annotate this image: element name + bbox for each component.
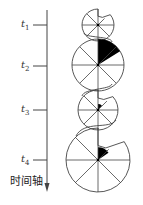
time-axis xyxy=(45,10,50,192)
circle-3 xyxy=(78,90,118,130)
rotation-circles xyxy=(66,9,130,192)
tick-label-1: t1 xyxy=(21,19,30,33)
axis-arrow-icon xyxy=(45,183,50,192)
circle-1 xyxy=(82,9,114,41)
filled-sector xyxy=(98,39,120,65)
circle-4 xyxy=(66,128,130,192)
axis-ticks xyxy=(33,25,47,160)
tick-label-2: t2 xyxy=(21,60,30,74)
axis-title: 时间轴 xyxy=(10,172,43,188)
tick-label-3: t3 xyxy=(21,104,30,118)
tick-label-4: t4 xyxy=(21,154,30,168)
circle-2 xyxy=(72,39,124,91)
